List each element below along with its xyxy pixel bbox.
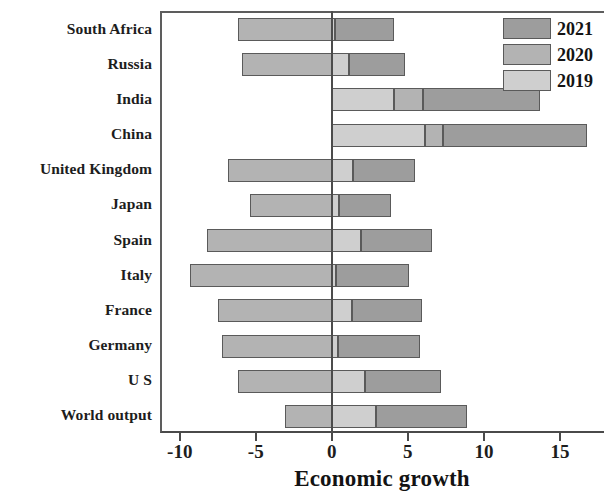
zero-reference-line: [331, 11, 333, 433]
bar-segment-2021-France: [352, 299, 422, 322]
x-tick-label-5: 5: [403, 441, 413, 463]
bar-segment-2021-Italy: [336, 264, 409, 287]
bar-segment-2020-Russia: [242, 53, 332, 76]
bar-segment-2019-Spain: [332, 229, 361, 252]
bar-segment-2021-U S: [365, 370, 441, 393]
bar-segment-2020-Germany: [222, 335, 331, 358]
bar-segment-2020-China: [425, 124, 443, 147]
y-label-italy: Italy: [121, 267, 153, 283]
bar-segment-2020-Japan: [250, 194, 332, 217]
y-label-china: China: [111, 126, 152, 142]
bar-segment-2021-Russia: [349, 53, 405, 76]
y-label-u-s: U S: [128, 372, 152, 388]
y-label-russia: Russia: [107, 56, 152, 72]
bar-segment-2020-United Kingdom: [228, 159, 331, 182]
bar-segment-2020-Italy: [190, 264, 331, 287]
legend: 2021 2020 2019: [503, 17, 599, 95]
bar-segment-2019-China: [332, 124, 425, 147]
y-label-spain: Spain: [114, 232, 152, 248]
bar-row: [160, 405, 604, 428]
economic-growth-bar-chart: South AfricaRussiaIndiaChinaUnited Kingd…: [0, 0, 604, 494]
x-tick--10: [179, 433, 181, 441]
y-label-south-africa: South Africa: [67, 21, 152, 37]
legend-label-2021: 2021: [557, 19, 593, 39]
bar-segment-2019-India: [332, 88, 394, 111]
legend-entry-2021: 2021: [503, 17, 599, 41]
x-tick-5: [407, 433, 409, 441]
x-tick-10: [483, 433, 485, 441]
x-axis-title: Economic growth: [160, 466, 604, 492]
bar-segment-2020-France: [218, 299, 332, 322]
bar-segment-2021-China: [443, 124, 587, 147]
bar-row: [160, 299, 604, 322]
bar-segment-2019-World output: [332, 405, 376, 428]
x-tick-label-15: 15: [550, 441, 569, 463]
y-label-japan: Japan: [111, 196, 152, 212]
x-tick-label--10: -10: [167, 441, 192, 463]
bar-segment-2020-Spain: [207, 229, 332, 252]
bar-segment-2021-Japan: [339, 194, 391, 217]
y-label-united-kingdom: United Kingdom: [40, 161, 152, 177]
x-tick-0: [331, 433, 333, 441]
bar-row: [160, 124, 604, 147]
bar-segment-2021-South Africa: [335, 18, 394, 41]
legend-entry-2020: 2020: [503, 43, 599, 67]
bar-row: [160, 194, 604, 217]
bar-segment-2020-World output: [285, 405, 332, 428]
bar-segment-2021-World output: [376, 405, 467, 428]
bar-segment-2021-United Kingdom: [353, 159, 415, 182]
bar-segment-2019-U S: [332, 370, 365, 393]
bar-segment-2019-Japan: [332, 194, 340, 217]
bar-row: [160, 229, 604, 252]
y-label-india: India: [116, 91, 152, 107]
x-tick-label-10: 10: [474, 441, 493, 463]
bar-segment-2021-Germany: [338, 335, 420, 358]
bar-segment-2020-U S: [238, 370, 332, 393]
y-label-france: France: [105, 302, 152, 318]
bar-segment-2020-India: [394, 88, 423, 111]
legend-label-2019: 2019: [557, 71, 593, 91]
x-tick-label--5: -5: [248, 441, 264, 463]
legend-swatch-2021: [503, 18, 551, 39]
x-tick--5: [255, 433, 257, 441]
bar-segment-2019-United Kingdom: [332, 159, 353, 182]
y-label-germany: Germany: [88, 337, 152, 353]
legend-swatch-2019: [503, 70, 551, 91]
legend-label-2020: 2020: [557, 45, 593, 65]
bar-segment-2020-South Africa: [238, 18, 332, 41]
bar-row: [160, 264, 604, 287]
bar-row: [160, 335, 604, 358]
bar-row: [160, 159, 604, 182]
y-axis-category-labels: South AfricaRussiaIndiaChinaUnited Kingd…: [0, 11, 156, 433]
bar-row: [160, 370, 604, 393]
x-tick-label-0: 0: [327, 441, 337, 463]
y-label-world-output: World output: [61, 407, 152, 423]
bar-segment-2021-Spain: [361, 229, 432, 252]
bar-segment-2019-Russia: [332, 53, 349, 76]
legend-swatch-2020: [503, 44, 551, 65]
x-tick-15: [559, 433, 561, 441]
bar-segment-2019-France: [332, 299, 352, 322]
legend-entry-2019: 2019: [503, 69, 599, 93]
